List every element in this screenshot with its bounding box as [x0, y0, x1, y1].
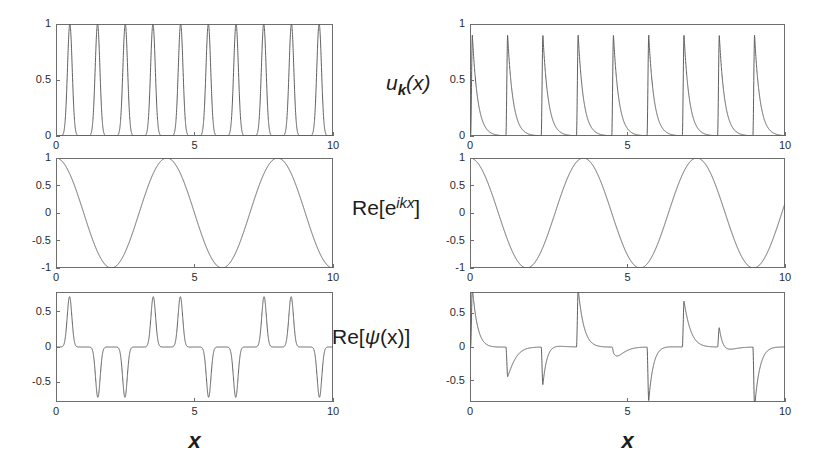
- y-tickmark: [470, 313, 474, 314]
- row-label-re-exp-ikx: Re[eikx]: [352, 196, 420, 218]
- data-line: [56, 297, 333, 398]
- x-tickmark: [333, 264, 334, 268]
- y-tickmark: [56, 382, 60, 383]
- bloch-wave-figure: 00.51051000.510510-1-0.500.510510-1-0.50…: [0, 0, 821, 468]
- x-tickmark: [56, 132, 57, 136]
- y-tick-label: 0: [11, 207, 51, 218]
- y-tick-label: 1: [425, 152, 465, 163]
- x-tick-label: 5: [180, 272, 210, 283]
- y-tickmark: [470, 24, 474, 25]
- row-label-u-k-of-x: uk(x): [386, 72, 431, 97]
- x-tickmark: [785, 398, 786, 402]
- data-line: [470, 292, 785, 402]
- y-tick-label: -0.5: [11, 376, 51, 387]
- x-tick-label: 10: [318, 272, 348, 283]
- y-tickmark: [56, 347, 60, 348]
- x-tickmark: [333, 398, 334, 402]
- curve-plane-wave-left: [56, 158, 333, 268]
- data-line: [470, 35, 785, 136]
- data-line: [56, 158, 333, 268]
- x-tickmark: [194, 398, 195, 402]
- x-tick-label: 10: [318, 140, 348, 151]
- x-tickmark: [333, 132, 334, 136]
- y-tickmark: [470, 136, 474, 137]
- plot-panel-u-k-left: [56, 24, 333, 136]
- x-tickmark: [56, 398, 57, 402]
- y-tick-label: 1: [425, 18, 465, 29]
- y-tick-label: 0.5: [425, 180, 465, 191]
- y-tickmark: [56, 24, 60, 25]
- x-tickmark: [627, 264, 628, 268]
- y-tick-label: 0: [425, 341, 465, 352]
- x-tickmark: [785, 132, 786, 136]
- y-tickmark: [56, 158, 60, 159]
- x-tickmark: [627, 398, 628, 402]
- y-tickmark: [56, 213, 60, 214]
- x-tick-label: 5: [613, 272, 643, 283]
- x-tick-label: 10: [770, 140, 800, 151]
- curve-bloch-psi-left: [56, 292, 333, 402]
- y-tick-label: 1: [11, 18, 51, 29]
- y-tickmark: [56, 136, 60, 137]
- x-tickmark: [470, 264, 471, 268]
- data-line: [470, 158, 785, 268]
- x-tick-label: 5: [180, 140, 210, 151]
- x-tick-label: 5: [613, 140, 643, 151]
- y-tick-label: 0: [11, 341, 51, 352]
- plot-panel-bloch-psi-left: [56, 292, 333, 402]
- plot-panel-plane-wave-left: [56, 158, 333, 268]
- x-tick-label: 5: [613, 406, 643, 417]
- y-tick-label: -0.5: [425, 375, 465, 386]
- x-tickmark: [194, 132, 195, 136]
- y-tickmark: [470, 158, 474, 159]
- y-tickmark: [56, 240, 60, 241]
- x-tick-label: 0: [455, 272, 485, 283]
- y-tick-label: 0.5: [11, 306, 51, 317]
- curve-bloch-psi-right: [470, 292, 785, 402]
- x-tickmark: [194, 264, 195, 268]
- y-tickmark: [470, 185, 474, 186]
- y-tick-label: 0.5: [425, 307, 465, 318]
- y-tickmark: [56, 185, 60, 186]
- y-tickmark: [470, 80, 474, 81]
- y-tickmark: [470, 240, 474, 241]
- x-tickmark: [627, 132, 628, 136]
- x-axis-label-right-column: x: [588, 430, 668, 452]
- x-tick-label: 5: [180, 406, 210, 417]
- row-label-re-psi-of-x: Re[ψ(x)]: [332, 326, 410, 347]
- y-tick-label: 0: [425, 207, 465, 218]
- x-tick-label: 0: [455, 140, 485, 151]
- plot-panel-u-k-right: [470, 24, 785, 136]
- curve-u-k-right: [470, 24, 785, 136]
- y-tickmark: [56, 311, 60, 312]
- x-tickmark: [470, 132, 471, 136]
- plot-panel-plane-wave-right: [470, 158, 785, 268]
- x-tick-label: 10: [770, 406, 800, 417]
- x-tick-label: 10: [318, 406, 348, 417]
- y-tick-label: -0.5: [425, 235, 465, 246]
- x-tick-label: 0: [41, 140, 71, 151]
- y-tick-label: -0.5: [11, 235, 51, 246]
- curve-plane-wave-right: [470, 158, 785, 268]
- x-axis-label-left-column: x: [155, 430, 235, 452]
- x-tick-label: 0: [41, 272, 71, 283]
- y-tickmark: [470, 347, 474, 348]
- y-tickmark: [470, 213, 474, 214]
- x-tick-label: 10: [770, 272, 800, 283]
- y-tickmark: [470, 380, 474, 381]
- y-tick-label: 0.5: [425, 74, 465, 85]
- x-tickmark: [470, 398, 471, 402]
- y-tick-label: 0.5: [11, 180, 51, 191]
- data-line: [56, 24, 333, 136]
- y-tick-label: 0.5: [11, 74, 51, 85]
- x-tick-label: 0: [455, 406, 485, 417]
- y-tickmark: [56, 80, 60, 81]
- x-tick-label: 0: [41, 406, 71, 417]
- x-tickmark: [785, 264, 786, 268]
- curve-u-k-left: [56, 24, 333, 136]
- x-tickmark: [56, 264, 57, 268]
- plot-panel-bloch-psi-right: [470, 292, 785, 402]
- y-tickmark: [56, 268, 60, 269]
- y-tick-label: 1: [11, 152, 51, 163]
- y-tickmark: [470, 268, 474, 269]
